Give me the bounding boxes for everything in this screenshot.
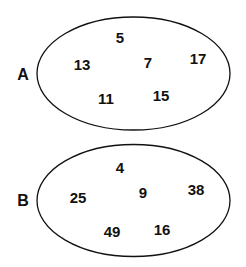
set-a-element: 7 bbox=[144, 55, 152, 70]
set-a-element: 5 bbox=[116, 30, 124, 45]
set-b-element: 38 bbox=[188, 182, 205, 197]
set-a-element: 11 bbox=[98, 91, 114, 106]
set-b-ellipse bbox=[37, 145, 230, 257]
set-b-element: 49 bbox=[104, 224, 121, 239]
set-b-element: 25 bbox=[70, 190, 87, 205]
set-a-element: 15 bbox=[153, 88, 170, 103]
set-a-ellipse bbox=[37, 17, 230, 130]
set-b-label: B bbox=[17, 193, 29, 209]
set-a-label: A bbox=[17, 67, 29, 83]
set-b-element: 16 bbox=[154, 222, 171, 237]
set-a-element: 13 bbox=[74, 57, 91, 72]
set-b-element: 9 bbox=[139, 185, 147, 200]
set-b-element: 4 bbox=[116, 160, 124, 175]
set-a-element: 17 bbox=[190, 51, 207, 66]
